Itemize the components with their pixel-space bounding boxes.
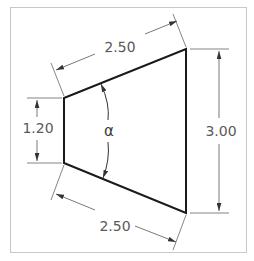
angle-indicator: α: [101, 84, 114, 178]
top-slant-dimension: 2.50: [51, 14, 186, 96]
bottom-slant-label: 2.50: [99, 218, 130, 234]
top-slant-label: 2.50: [104, 39, 135, 56]
trapezoid-shape: [64, 49, 186, 213]
left-height-label: 1.20: [22, 120, 53, 136]
right-height-label: 3.00: [205, 123, 236, 139]
bottom-slant-dimension: 2.50: [51, 165, 186, 250]
alpha-label: α: [104, 122, 114, 140]
right-height-dimension: 3.00: [190, 49, 237, 213]
left-height-dimension: 1.20: [22, 98, 62, 163]
trapezoid-diagram: 2.50 2.50 1.20 3.00 α: [0, 0, 254, 261]
